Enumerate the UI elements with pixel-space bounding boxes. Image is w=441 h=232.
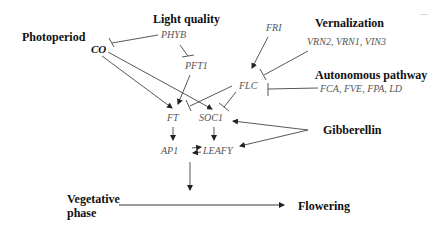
gene-pft1: PFT1: [185, 61, 208, 71]
pathway-label-light-quality: Light quality: [153, 13, 220, 25]
gene-leafy: LEAFY: [203, 146, 232, 156]
gene-soc1: SOC1: [199, 113, 223, 123]
phase-vegetative-line1: Vegetative: [67, 193, 120, 205]
gene-flc: FLC: [239, 81, 257, 91]
gene-ap1: AP1: [161, 146, 178, 156]
gene-vrn-group: VRN2, VRN1, VIN3: [307, 37, 386, 47]
pathway-label-vernalization: Vernalization: [315, 17, 384, 29]
pathway-label-autonomous: Autonomous pathway: [315, 69, 427, 81]
faint-mark: [420, 14, 428, 15]
gene-ft: FT: [167, 113, 179, 123]
pathway-label-photoperiod: Photoperiod: [22, 31, 85, 43]
gene-fri: FRI: [266, 23, 282, 33]
gene-autonomous-group: FCA, FVE, FPA, LD: [320, 84, 402, 94]
phase-vegetative-line2: phase: [67, 207, 96, 219]
gene-phyb: PHYB: [161, 30, 186, 40]
gene-co: CO: [91, 44, 106, 55]
pathway-label-gibberellin: Gibberellin: [323, 124, 381, 136]
phase-flowering: Flowering: [298, 200, 350, 212]
flowering-pathway-diagram: Photoperiod Light quality Vernalization …: [0, 0, 441, 232]
